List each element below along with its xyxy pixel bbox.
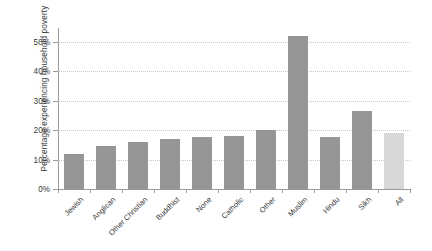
x-axis-tick-label: Sikh: [357, 195, 374, 212]
y-axis-tick-label: 0%: [10, 185, 50, 194]
x-axis-tick-label: Buddhist: [154, 195, 181, 222]
bar: [288, 36, 307, 189]
x-axis-tick-label: Other: [258, 195, 278, 215]
bar: [64, 154, 83, 189]
x-axis-line: [58, 189, 410, 190]
x-axis-tick-mark: [410, 189, 411, 193]
bar: [224, 136, 243, 189]
bar: [160, 139, 179, 189]
x-axis-tick-label: Hindu: [321, 195, 341, 215]
y-axis-tick-label: 10%: [10, 155, 50, 164]
x-axis-tick-mark: [186, 189, 187, 193]
bar-chart: Percentage experiencing household povert…: [0, 0, 432, 251]
x-axis-tick-mark: [314, 189, 315, 193]
bar: [384, 133, 403, 189]
y-axis-tick-label: 30%: [10, 96, 50, 105]
bar: [352, 111, 371, 189]
y-axis-tick-label: 50%: [10, 37, 50, 46]
x-axis-tick-mark: [90, 189, 91, 193]
x-axis-tick-label: None: [194, 195, 213, 214]
bar: [96, 146, 115, 189]
x-axis-tick-label: Anglican: [90, 195, 117, 222]
x-axis-tick-mark: [58, 189, 59, 193]
y-axis-title: Percentage experiencing household povert…: [40, 0, 49, 179]
x-axis-tick-mark: [154, 189, 155, 193]
y-axis-tick-label: 40%: [10, 67, 50, 76]
x-axis-tick-mark: [378, 189, 379, 193]
x-axis-tick-label: Jewish: [63, 195, 86, 218]
x-axis-tick-mark: [122, 189, 123, 193]
x-axis-tick-mark: [218, 189, 219, 193]
x-axis-tick-label: All: [393, 195, 405, 207]
y-axis-tick-label: 20%: [10, 126, 50, 135]
bar: [320, 137, 339, 189]
x-axis-tick-label: Catholic: [220, 195, 246, 221]
x-axis-tick-mark: [346, 189, 347, 193]
bar: [192, 137, 211, 189]
bar: [128, 142, 147, 189]
x-axis-tick-mark: [250, 189, 251, 193]
x-axis-tick-label: Muslim: [286, 195, 309, 218]
bar: [256, 130, 275, 189]
plot-area: [58, 33, 410, 189]
x-axis-tick-mark: [282, 189, 283, 193]
